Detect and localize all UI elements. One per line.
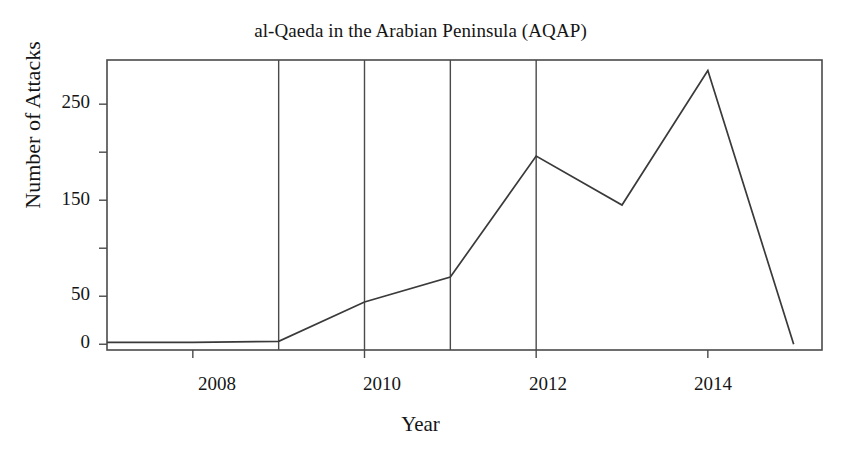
plot-frame <box>107 60 822 350</box>
plot-area <box>0 0 841 456</box>
vertical-gridlines <box>279 60 537 350</box>
chart-container: al-Qaeda in the Arabian Peninsula (AQAP)… <box>0 0 841 456</box>
y-axis-ticks <box>99 104 107 344</box>
x-axis-ticks <box>193 350 708 358</box>
